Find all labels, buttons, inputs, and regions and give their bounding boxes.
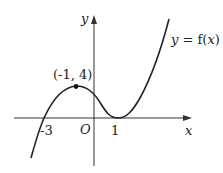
origin-label: O: [80, 123, 91, 136]
y-axis-arrow-icon: [91, 15, 97, 24]
point-annotation: (-1, 4): [53, 68, 92, 81]
curve-label-close: ): [215, 32, 220, 47]
curve-label-x: x: [207, 32, 214, 47]
tick-label-1: 1: [111, 124, 119, 137]
curve-label: y = f(x): [171, 33, 220, 46]
local-maximum-point: [74, 84, 79, 89]
tick-label-neg3: -3: [40, 124, 53, 137]
graph-canvas: [0, 0, 223, 173]
y-axis-label: y: [81, 12, 88, 25]
function-graph: y x O -3 1 (-1, 4) y = f(x): [0, 0, 223, 173]
x-axis-arrow-icon: [183, 115, 192, 121]
x-axis-label: x: [185, 124, 192, 137]
curve-label-eq: = f(: [178, 32, 207, 47]
